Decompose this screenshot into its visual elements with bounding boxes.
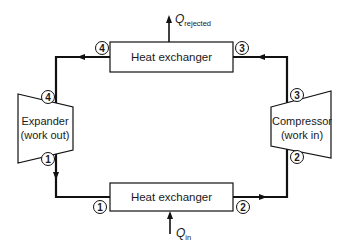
q-rejected-symbol: Q [175,12,184,26]
arrow-right-icon [259,194,267,200]
state-point-top-left: 4 [96,42,109,55]
expander-label: Expander [21,115,68,127]
q-rejected: Qrejected [166,12,211,42]
state-point-compressor-out: 3 [291,89,304,102]
arrow-left-icon [257,54,265,60]
compressor-label: Compressor [272,115,332,127]
arrow-down-icon [53,172,59,180]
cycle-diagram: Heat exchanger Heat exchanger Expander (… [0,0,348,249]
q-in-subscript: in [185,233,191,242]
top-heat-exchanger-label: Heat exchanger [131,51,212,63]
q-in: Qin [167,211,191,242]
compressor: Compressor (work in) [271,91,332,158]
state-point-expander-out: 1 [42,153,55,166]
compressor-sublabel: (work in) [281,129,323,141]
arrow-up-icon [167,211,173,219]
svg-text:4: 4 [99,43,105,54]
svg-text:Qin: Qin [176,226,191,242]
line-expander-to-bottom-hx [56,150,110,197]
svg-text:3: 3 [294,90,300,101]
line-top-hx-to-expander [56,57,110,108]
bottom-heat-exchanger: Heat exchanger [110,183,233,211]
state-point-expander-in: 4 [42,91,55,104]
state-point-compressor-in: 2 [291,151,304,164]
bottom-heat-exchanger-label: Heat exchanger [131,191,212,203]
expander-sublabel: (work out) [21,129,70,141]
q-rejected-subscript: rejected [184,19,211,28]
arrow-up-icon [166,15,172,23]
flow-arrows [53,54,267,200]
state-point-top-right: 3 [236,42,249,55]
state-point-bottom-left: 1 [94,201,107,214]
line-compressor-to-top-hx [233,57,287,107]
flow-lines [56,57,287,197]
arrow-left-icon [77,54,85,60]
line-bottom-hx-to-compressor [233,146,287,197]
svg-text:2: 2 [240,202,246,213]
state-point-bottom-right: 2 [237,201,250,214]
svg-text:Qrejected: Qrejected [175,12,211,28]
svg-text:3: 3 [239,43,245,54]
q-in-symbol: Q [176,226,185,240]
svg-text:4: 4 [45,92,51,103]
svg-text:1: 1 [97,202,103,213]
svg-text:1: 1 [45,154,51,165]
top-heat-exchanger: Heat exchanger [110,42,233,72]
svg-text:2: 2 [294,152,300,163]
